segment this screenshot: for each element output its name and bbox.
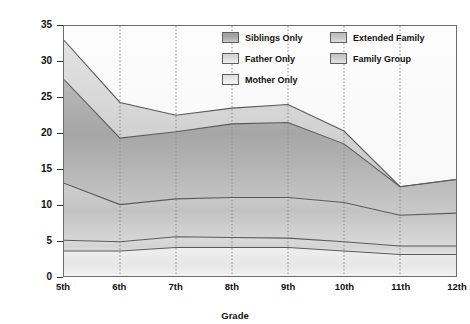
x-tick-10th: 10th (324, 279, 364, 293)
legend-item-father-only[interactable]: Father Only (222, 53, 330, 64)
x-tick-8th: 8th (212, 279, 252, 293)
y-tick-label: 30 (41, 56, 52, 66)
legend-label: Siblings Only (245, 33, 303, 43)
legend-label: Family Group (353, 54, 411, 64)
extended-family-swatch (330, 32, 347, 43)
y-tick-label: 25 (41, 92, 52, 102)
x-tick-label: 6th (112, 282, 126, 292)
legend-item-mother-only[interactable]: Mother Only (222, 74, 330, 85)
legend-item-family-group[interactable]: Family Group (330, 53, 448, 64)
mother-only-swatch (222, 74, 239, 85)
legend-label: Father Only (245, 54, 295, 64)
legend-item-extended-family[interactable]: Extended Family (330, 32, 448, 43)
x-tick-11th: 11th (381, 279, 421, 293)
x-tick-6th: 6th (99, 279, 139, 293)
x-tick-label: 5th (56, 282, 70, 292)
x-tick-label: 8th (225, 282, 239, 292)
area-chart: Percentage of Waking Hours 0510152025303… (0, 0, 470, 324)
y-tick-label: 5 (46, 236, 52, 246)
siblings-only-swatch (222, 32, 239, 43)
x-tick-9th: 9th (268, 279, 308, 293)
x-axis-title: Grade (0, 310, 470, 321)
legend-item-siblings-only[interactable]: Siblings Only (222, 32, 330, 43)
y-tick-label: 15 (41, 164, 52, 174)
legend-label: Mother Only (245, 75, 298, 85)
family-group-swatch (330, 53, 347, 64)
father-only-swatch (222, 53, 239, 64)
y-tick-label: 35 (41, 20, 52, 30)
x-tick-5th: 5th (43, 279, 83, 293)
x-tick-label: 7th (168, 282, 182, 292)
y-tick-label: 20 (41, 128, 52, 138)
x-tick-12th: 12th (437, 279, 470, 293)
x-tick-label: 11th (391, 282, 410, 292)
x-tick-label: 9th (281, 282, 295, 292)
x-tick-label: 10th (335, 282, 355, 292)
x-tick-7th: 7th (156, 279, 196, 293)
x-tick-label: 12th (447, 282, 467, 292)
legend-label: Extended Family (353, 33, 425, 43)
y-tick-label: 10 (41, 200, 52, 210)
chart-legend: Siblings OnlyExtended FamilyFather OnlyF… (222, 27, 448, 90)
